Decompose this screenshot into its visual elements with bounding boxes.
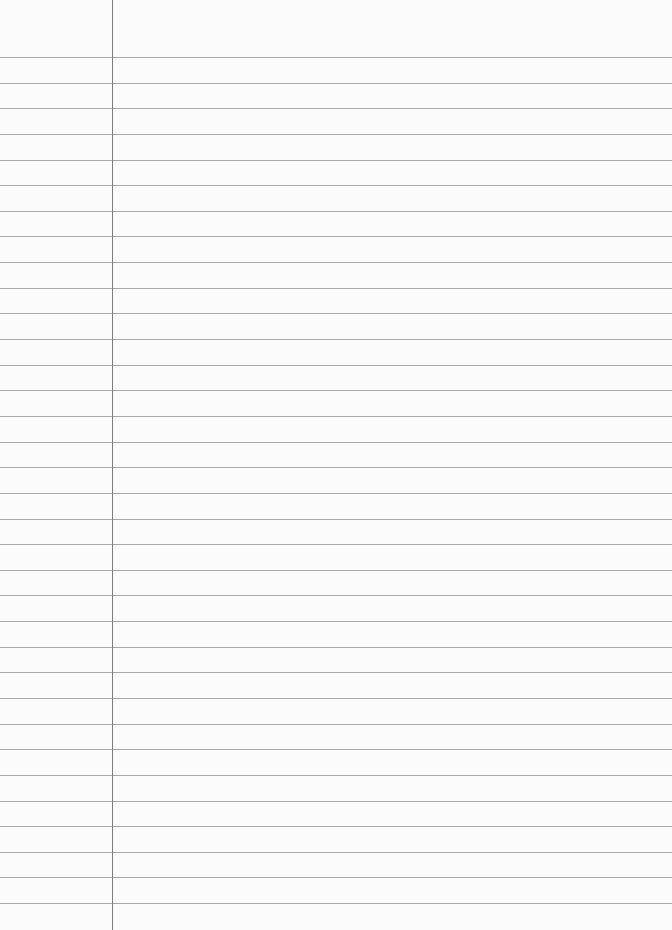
lined-paper-sheet [0,0,672,930]
ruled-line [0,442,672,443]
ruled-line [0,108,672,109]
ruled-line [0,570,672,571]
ruled-line [0,313,672,314]
ruled-line [0,877,672,878]
ruled-line [0,852,672,853]
ruled-line [0,211,672,212]
ruled-line [0,185,672,186]
ruled-line [0,160,672,161]
ruled-line [0,365,672,366]
ruled-line [0,262,672,263]
ruled-line [0,621,672,622]
ruled-line [0,83,672,84]
ruled-line [0,390,672,391]
ruled-line [0,698,672,699]
ruled-line [0,134,672,135]
ruled-line [0,801,672,802]
margin-line [112,0,113,930]
ruled-line [0,544,672,545]
ruled-line [0,672,672,673]
ruled-line [0,467,672,468]
ruled-line [0,236,672,237]
ruled-line [0,288,672,289]
ruled-line [0,826,672,827]
ruled-line [0,595,672,596]
ruled-line [0,519,672,520]
ruled-line [0,903,672,904]
ruled-line [0,493,672,494]
ruled-line [0,749,672,750]
ruled-line [0,416,672,417]
ruled-line [0,57,672,58]
ruled-line [0,339,672,340]
ruled-line [0,775,672,776]
ruled-line [0,724,672,725]
ruled-line [0,647,672,648]
